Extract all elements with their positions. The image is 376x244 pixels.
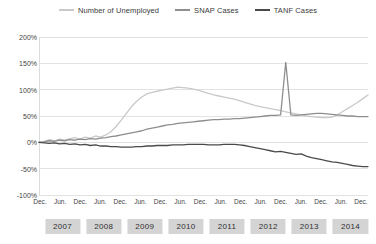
year-label-2014: 2014	[333, 219, 368, 234]
legend-swatch-snap	[175, 9, 190, 11]
x-tick-label: Dec.	[114, 198, 127, 205]
x-tick-label: Jun.	[54, 198, 66, 205]
plot-area	[0, 20, 376, 200]
x-tick-label: Dec.	[73, 198, 86, 205]
legend-item-snap[interactable]: SNAP Cases	[175, 6, 239, 15]
x-tick-label: Jun.	[255, 198, 267, 205]
plot-svg	[0, 20, 376, 200]
year-label-2012: 2012	[251, 219, 286, 234]
legend-item-unemployed[interactable]: Number of Unemployed	[59, 6, 159, 15]
x-tick-label: Jun.	[214, 198, 226, 205]
legend-label-snap: SNAP Cases	[194, 6, 239, 15]
x-tick-label: Jun.	[134, 198, 146, 205]
year-label-2013: 2013	[292, 219, 327, 234]
year-axis: 20072008200920102011201220132014	[0, 219, 376, 237]
x-tick-label: Dec.	[354, 198, 367, 205]
x-tick-label: Dec.	[274, 198, 287, 205]
x-tick-label: Dec.	[154, 198, 167, 205]
x-tick-label: Jun.	[295, 198, 307, 205]
chart-page: Number of UnemployedSNAP CasesTANF Cases…	[0, 0, 376, 244]
x-tick-label: Jun.	[174, 198, 186, 205]
x-tick-label: Dec.	[194, 198, 207, 205]
legend-swatch-unemployed	[59, 9, 74, 11]
legend-item-tanf[interactable]: TANF Cases	[255, 6, 317, 15]
year-label-2007: 2007	[45, 219, 80, 234]
series-line	[39, 87, 368, 142]
year-label-2008: 2008	[86, 219, 121, 234]
chart-legend: Number of UnemployedSNAP CasesTANF Cases	[0, 0, 376, 20]
x-tick-label: Jun.	[335, 198, 347, 205]
year-label-2010: 2010	[168, 219, 203, 234]
legend-label-unemployed: Number of Unemployed	[78, 6, 159, 15]
x-tick-label: Dec.	[314, 198, 327, 205]
year-label-2009: 2009	[127, 219, 162, 234]
series-line	[39, 62, 368, 142]
x-tick-label: Dec.	[234, 198, 247, 205]
legend-label-tanf: TANF Cases	[274, 6, 317, 15]
legend-swatch-tanf	[255, 9, 270, 11]
x-tick-label: Jun.	[94, 198, 106, 205]
x-tick-label: Dec.	[33, 198, 46, 205]
year-label-2011: 2011	[210, 219, 245, 234]
x-axis: Dec.Jun.Dec.Jun.Dec.Jun.Dec.Jun.Dec.Jun.…	[0, 198, 376, 212]
series-line	[39, 142, 368, 166]
